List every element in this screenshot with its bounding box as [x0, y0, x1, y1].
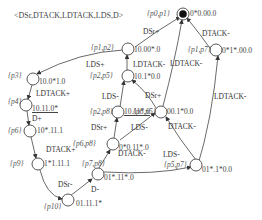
node-p9 — [32, 158, 44, 170]
node-name: {p2,p8} — [90, 108, 113, 116]
node-name: {p6,p8} — [73, 140, 96, 148]
node-code: 01.11.1* — [76, 200, 102, 208]
node-p4 — [20, 99, 32, 111]
edge-label: DTACK- — [168, 123, 196, 131]
node-p3 — [27, 73, 39, 85]
edge-label: DTACK- — [118, 150, 146, 158]
node-name: {p10} — [44, 203, 61, 211]
edge-d-plus — [27, 111, 29, 125]
edge-label: DTACK- — [202, 30, 230, 38]
node-name: {p0,p1} — [147, 10, 170, 18]
edge-d-minus — [70, 179, 92, 196]
edge-label: LDTACK- — [133, 61, 165, 69]
node-name: {p7,p8} — [82, 160, 105, 168]
node-p1p2 — [122, 43, 134, 55]
node-p10 — [62, 194, 74, 206]
node-code: 10.11*.0 — [124, 108, 150, 116]
diagram-title: <DSr,DTACK,LDTACK,LDS,D> — [14, 12, 123, 20]
edge-label: LDS- — [102, 93, 119, 101]
edge-label: DSr+ — [145, 92, 161, 100]
edge-label: D+ — [32, 115, 42, 123]
edge-label: DSr+ — [143, 28, 159, 36]
node-name: {p5,p7} — [164, 161, 187, 169]
node-code: 01*.1*0.0 — [202, 166, 232, 174]
node-name: {p4} — [8, 98, 22, 106]
edge-label: DTACK+ — [46, 146, 75, 154]
node-code: 10.00*.0 — [134, 46, 160, 54]
edge-label: LDTACK- — [214, 93, 246, 101]
edge-ldtack-minus-right — [197, 56, 218, 168]
edge-dsr-plus-p6p8 — [114, 118, 117, 138]
node-code: 01*.11*.0 — [104, 174, 134, 182]
edge-dtack-plus — [31, 137, 36, 158]
node-name: {p1,p7} — [188, 46, 211, 54]
node-p2p8 — [112, 106, 124, 118]
initial-state-marker — [179, 10, 187, 18]
node-p1p7 — [210, 44, 222, 56]
node-code: 10.11.0* — [32, 105, 58, 113]
node-code: 0*0.00.0 — [190, 10, 216, 18]
edge-lds-minus-p2p8 — [120, 81, 124, 107]
edge-label: DSr+ — [91, 124, 107, 132]
node-name: {p3} — [8, 72, 22, 80]
node-code: 00.1*0.0 — [167, 108, 193, 116]
node-p2p5 — [122, 70, 134, 82]
edge-label: LDTACK+ — [36, 90, 70, 98]
node-p6 — [24, 125, 36, 137]
node-code: 10.1*0.0 — [134, 73, 160, 81]
state-graph-diagram: <DSr,DTACK,LDTACK,LDS,D> {p0,p1} {p1,p2}… — [0, 0, 262, 220]
edge-label: DSr- — [58, 181, 72, 189]
edge-label: LDS+ — [86, 61, 104, 69]
node-p5p7 — [190, 159, 202, 171]
node-name: {p6} — [8, 127, 22, 135]
node-name: {p9} — [10, 160, 24, 168]
node-code: 10*.11.1 — [37, 127, 63, 135]
node-name: {p2,p5} — [90, 72, 113, 80]
node-p6p5 — [155, 106, 167, 118]
edge-ldtack-plus — [28, 85, 32, 99]
node-code: 10.0*1.0 — [39, 78, 65, 86]
edge-label: D- — [91, 186, 99, 194]
node-code: 1*1.11.1 — [44, 160, 70, 168]
node-p7p8 — [92, 168, 104, 180]
edge-label: LDS- — [163, 151, 180, 159]
node-code: 0*1*.00.0 — [222, 47, 252, 55]
edge-label: LDS- — [131, 124, 148, 132]
node-name: {p1,p2} — [91, 44, 114, 52]
edge-label: LDTACK- — [170, 60, 202, 68]
